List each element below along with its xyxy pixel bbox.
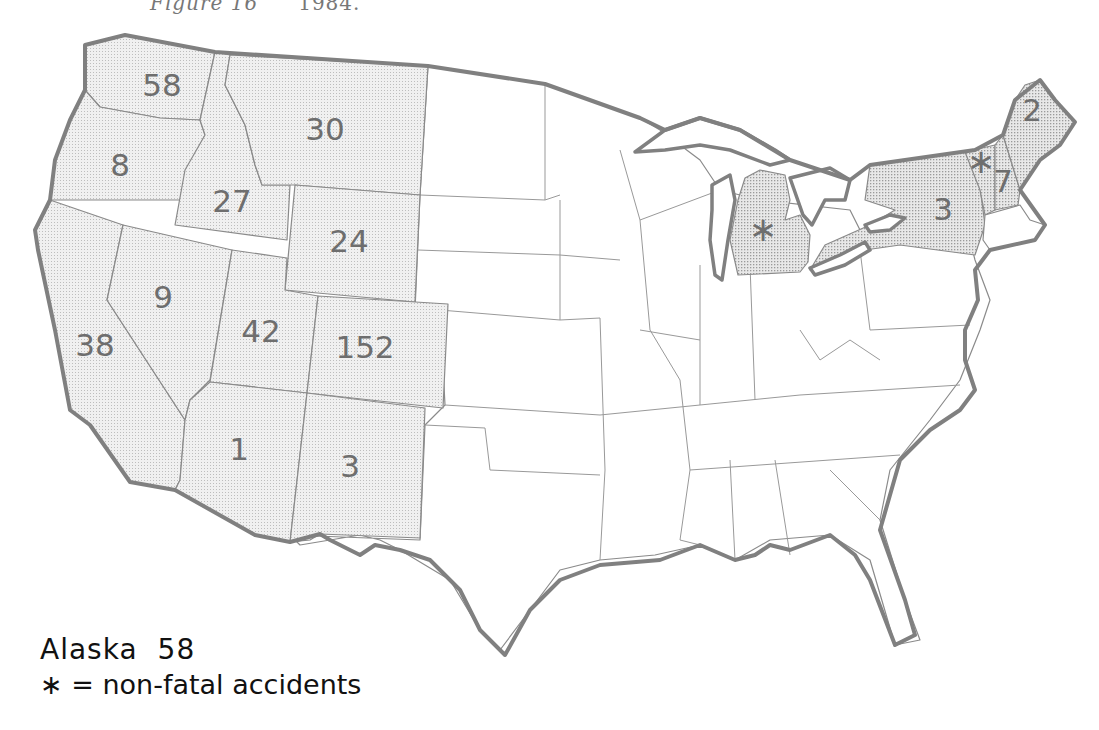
label-michigan: ∗ [749,209,778,249]
label-oregon: 8 [110,147,130,183]
label-new-mexico: 3 [340,448,360,484]
map-legend: Alaska58 ∗ = non-fatal accidents [40,633,361,703]
symbol-meaning: = non-fatal accidents [71,669,361,700]
label-colorado: 152 [335,329,394,365]
label-washington: 58 [142,67,181,103]
symbol-key: ∗ = non-fatal accidents [40,667,361,703]
label-maine: 2 [1022,92,1042,128]
alaska-value: 58 [158,633,196,666]
label-new-hampshire: 7 [993,163,1013,199]
label-utah: 42 [241,313,280,349]
alaska-label: Alaska [40,633,138,666]
label-idaho: 27 [212,183,251,219]
alaska-entry: Alaska58 [40,633,361,667]
label-nevada: 9 [153,279,173,315]
us-map: 58 8 27 30 24 38 9 42 152 1 3 ∗ 3 ∗ 7 2 [0,0,1099,730]
label-wyoming: 24 [329,223,368,259]
asterisk-icon: ∗ [40,669,63,700]
label-arizona: 1 [229,431,249,467]
label-new-york: 3 [933,191,953,227]
label-california: 38 [75,327,114,363]
label-montana: 30 [305,111,344,147]
label-vermont: ∗ [967,141,996,181]
